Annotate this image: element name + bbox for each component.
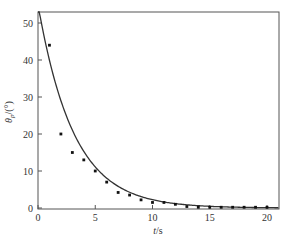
chart: 01020304050 05101520 t/s θp/(°): [0, 0, 289, 243]
data-point: [82, 159, 85, 162]
x-tick-label: 10: [148, 212, 158, 223]
data-point: [266, 206, 269, 209]
data-points: [48, 44, 268, 209]
data-point: [185, 205, 188, 208]
data-point: [174, 203, 177, 206]
y-tick-label: 50: [23, 18, 33, 29]
data-point: [94, 170, 97, 173]
data-point: [117, 191, 120, 194]
x-tick-label: 15: [205, 212, 215, 223]
data-point: [60, 133, 63, 136]
y-tick-label: 30: [23, 92, 33, 103]
data-point: [197, 206, 200, 209]
data-point: [48, 44, 51, 47]
data-point: [128, 194, 131, 197]
data-point: [254, 206, 257, 209]
data-point: [105, 181, 108, 184]
x-tick-label: 5: [93, 212, 98, 223]
y-tick-label: 20: [23, 129, 33, 140]
data-point: [151, 201, 154, 204]
y-axis-label: θp/(°): [3, 101, 16, 123]
y-tick-label: 10: [23, 166, 33, 177]
fitted-curve: [38, 12, 278, 208]
data-point: [140, 198, 143, 201]
data-point: [231, 206, 234, 209]
x-tick-label: 20: [262, 212, 272, 223]
data-point: [163, 201, 166, 204]
x-tick-label: 0: [36, 212, 41, 223]
x-axis-label: t/s: [153, 225, 163, 236]
data-point: [71, 151, 74, 154]
plot-frame: [38, 12, 279, 209]
data-point: [220, 206, 223, 209]
data-point: [208, 206, 211, 209]
y-axis-ticks: 01020304050: [23, 18, 42, 214]
y-tick-label: 40: [23, 55, 33, 66]
data-point: [243, 206, 246, 209]
y-tick-label: 0: [28, 203, 33, 214]
